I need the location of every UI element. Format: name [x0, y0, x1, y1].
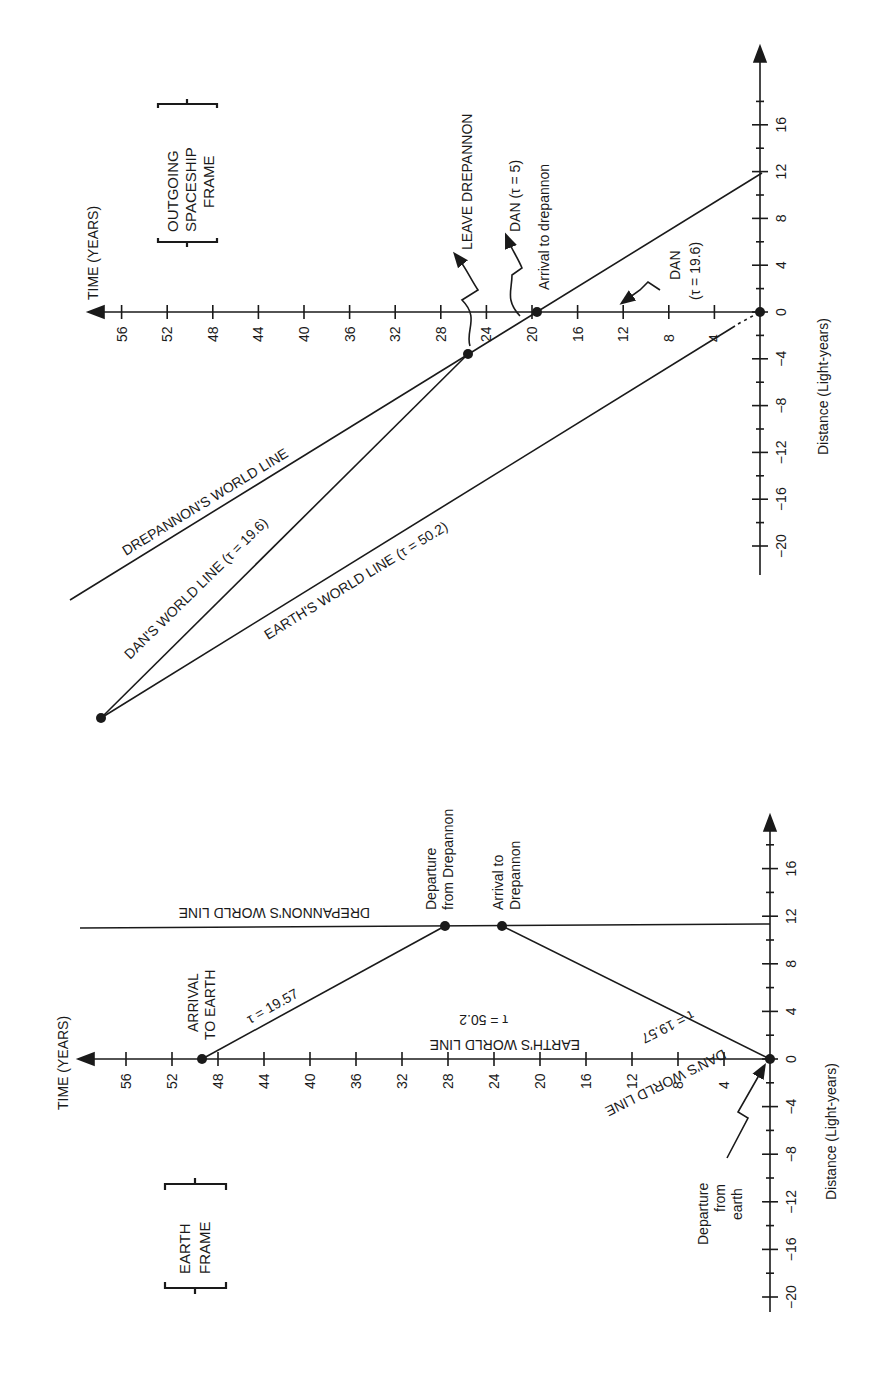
earth-line-label: EARTH'S WORLD LINE (τ = 50.2) — [261, 518, 450, 643]
time-axis-arrow-icon — [78, 1053, 94, 1065]
drepannon-line-label: DREPANNON'S WORLD LINE — [179, 905, 370, 921]
tick-label: 8 — [773, 214, 789, 222]
tick-label: 20 — [524, 326, 540, 342]
tick-label: −20 — [773, 534, 789, 558]
drepannon-line-label: DREPANNON'S WORLD LINE — [119, 445, 291, 559]
tau-back-label: τ = 19.57 — [639, 1007, 697, 1047]
tick-label: −4 — [783, 1098, 799, 1114]
tick-label: 12 — [773, 164, 789, 180]
departure-earth-label: Departure — [695, 1183, 711, 1245]
tick-label: 16 — [773, 117, 789, 133]
tick-label: −4 — [773, 351, 789, 367]
tick-label: −12 — [783, 1190, 799, 1214]
tick-label: 4 — [773, 261, 789, 269]
tick-label: −12 — [773, 440, 789, 464]
event-dot — [755, 307, 765, 317]
frame-label: SPACESHIP — [182, 147, 199, 232]
distance-axis-arrow-icon — [764, 815, 776, 831]
arrival-drepannon-label: Arrival to — [490, 855, 506, 910]
tick-label: 40 — [302, 1073, 318, 1089]
frame-label: FRAME — [196, 1222, 213, 1275]
dan196-arrow-icon — [626, 282, 660, 300]
distance-axis-label: Distance (Light-years) — [823, 1063, 839, 1200]
spacetime-diagrams: 48121620242832364044485256 −20−16−12−8−4… — [0, 0, 880, 1379]
earth-tau-label: τ = 50.2 — [459, 1012, 508, 1028]
tick-label: 44 — [250, 326, 266, 342]
dan-line-label: DAN'S WORLD LINE — [603, 1046, 729, 1119]
tick-label: −8 — [783, 1146, 799, 1162]
tick-label: 32 — [387, 326, 403, 342]
departure-earth-label: from — [712, 1184, 728, 1212]
tick-label: −16 — [773, 487, 789, 511]
event-dot — [197, 1054, 207, 1064]
time-axis-label: TIME (YEARS) — [55, 1016, 71, 1110]
event-dot — [96, 713, 106, 723]
tick-label: 12 — [615, 326, 631, 342]
frame-brace — [158, 99, 217, 108]
arrival-earth-label: TO EARTH — [202, 970, 218, 1040]
frame-label: OUTGOING — [164, 150, 181, 232]
tick-label: 56 — [118, 1073, 134, 1089]
outgoing-frame-diagram — [70, 46, 768, 723]
tick-label: −16 — [783, 1237, 799, 1261]
tick-label: 32 — [394, 1073, 410, 1089]
tick-label: 36 — [342, 326, 358, 342]
tick-label: 4 — [783, 1007, 799, 1015]
frame-brace — [158, 238, 217, 247]
tick-label: 24 — [486, 1073, 502, 1089]
tick-label: 52 — [159, 326, 175, 342]
tick-label: 52 — [164, 1073, 180, 1089]
tick-label: 12 — [783, 908, 799, 924]
tick-label: 16 — [783, 861, 799, 877]
tick-label: −20 — [783, 1285, 799, 1309]
departure-drepannon-label: from Drepannon — [440, 809, 456, 910]
earth-line-label: EARTH'S WORLD LINE — [430, 1037, 580, 1053]
departure-earth-arrow-icon — [727, 1070, 762, 1158]
departure-drepannon-label: Departure — [423, 848, 439, 910]
tick-label: 4 — [716, 1081, 732, 1089]
frame-brace — [165, 1282, 226, 1294]
tick-label: 12 — [624, 1073, 640, 1089]
dan-tau5-label: DAN (τ = 5) — [507, 160, 523, 232]
time-axis-arrow-icon — [88, 306, 104, 318]
event-dot — [765, 1054, 775, 1064]
event-dot — [532, 307, 542, 317]
dan-world-line-return — [202, 926, 445, 1059]
arrival-earth-label: ARRIVAL — [185, 973, 201, 1032]
tick-label: 48 — [205, 326, 221, 342]
drepannon-world-line — [80, 924, 770, 928]
tick-label: 36 — [348, 1073, 364, 1089]
tick-label: 0 — [783, 1055, 799, 1063]
dan-tau196-label: DAN — [667, 250, 683, 280]
tick-label: 24 — [478, 326, 494, 342]
distance-axis-label: Distance (Light-years) — [815, 318, 831, 455]
arrival-drepannon-label: Drepannon — [507, 841, 523, 910]
departure-earth-label: earth — [729, 1188, 745, 1220]
tick-label: 40 — [296, 326, 312, 342]
tick-label: 4 — [706, 334, 722, 342]
tick-label: 8 — [783, 960, 799, 968]
tick-label: 16 — [578, 1073, 594, 1089]
dan-tau196-label: (τ = 19.6) — [687, 242, 703, 300]
frame-brace — [165, 1178, 226, 1190]
tick-label: 8 — [661, 334, 677, 342]
frame-label: EARTH — [176, 1223, 193, 1274]
leave-drepannon-label: LEAVE DREPANNON — [459, 114, 475, 250]
event-dot — [440, 921, 450, 931]
event-dot — [463, 349, 473, 359]
distance-axis-arrow-icon — [754, 46, 766, 62]
tick-label: −8 — [773, 397, 789, 413]
time-axis-label: TIME (YEARS) — [85, 206, 101, 300]
tick-label: 28 — [433, 326, 449, 342]
distance-tick-labels: −20−16−12−8−40481216 — [783, 861, 799, 1309]
tick-label: 48 — [210, 1073, 226, 1089]
tick-label: 56 — [114, 326, 130, 342]
distance-tick-labels: −20−16−12−8−40481216 — [773, 117, 789, 558]
tick-label: 16 — [570, 326, 586, 342]
leave-arrow-icon — [458, 258, 478, 346]
time-tick-labels: 48121620242832364044485256 — [118, 1073, 732, 1089]
tick-label: 20 — [532, 1073, 548, 1089]
tick-label: 28 — [440, 1073, 456, 1089]
frame-label: FRAME — [200, 156, 217, 209]
dan5-arrow-icon — [508, 240, 522, 316]
